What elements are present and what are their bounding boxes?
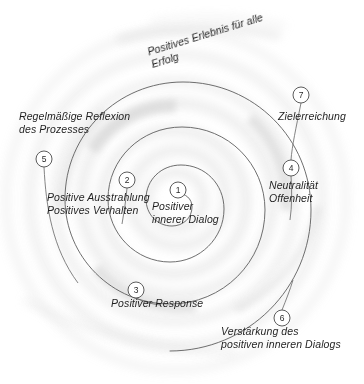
node-label-2: Positive Ausstrahlung Positives Verhalte… <box>47 191 150 216</box>
node-label-3: Positiver Response <box>111 297 203 310</box>
marker-number-6: 6 <box>280 313 285 323</box>
node-marker-5[interactable]: 5 <box>36 151 52 167</box>
marker-number-7: 7 <box>299 90 304 100</box>
marker-number-4: 4 <box>289 163 294 173</box>
node-marker-7[interactable]: 7 <box>293 87 309 103</box>
node-label-4: Neutralität Offenheit <box>269 179 318 204</box>
node-marker-2[interactable]: 2 <box>119 172 135 188</box>
marker-number-2: 2 <box>125 175 130 185</box>
node-marker-1[interactable]: 1 <box>170 182 186 198</box>
node-label-7: Zielerreichung <box>278 110 346 123</box>
node-marker-6[interactable]: 6 <box>274 310 290 326</box>
node-label-6: Verstärkung des positiven inneren Dialog… <box>221 325 341 350</box>
marker-number-3: 3 <box>134 285 139 295</box>
node-marker-4[interactable]: 4 <box>283 160 299 176</box>
marker-number-1: 1 <box>176 185 181 195</box>
node-label-5: Regelmäßige Reflexion des Prozesses <box>19 110 130 135</box>
node-label-1: Positiver innerer Dialog <box>152 200 219 225</box>
node-marker-3[interactable]: 3 <box>128 282 144 298</box>
marker-number-5: 5 <box>42 154 47 164</box>
